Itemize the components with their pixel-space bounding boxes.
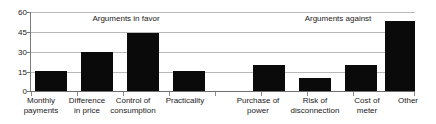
cat-label-line2: consumption [103, 106, 163, 116]
cat-label-control-of-consumption: Control of consumption [103, 96, 163, 116]
cat-label-line1: Cost of [344, 96, 390, 106]
cat-label-line2: meter [344, 106, 390, 116]
x-axis-category-labels: Monthly payments Difference in price Con… [0, 96, 436, 124]
bar-other [385, 21, 415, 91]
bar-practicality [173, 71, 205, 91]
cat-label-line1: Risk of [284, 96, 346, 106]
gridline-45 [31, 32, 415, 33]
group-title-arguments-in-favor: Arguments in favor [46, 14, 206, 23]
bar-risk-of-disconnection [299, 78, 331, 91]
cat-label-line1: Practicality [157, 96, 213, 106]
cat-label-line1: Purchase of [228, 96, 288, 106]
y-tick-label-30: 30 [0, 49, 27, 57]
cat-label-practicality: Practicality [157, 96, 213, 106]
bar-difference-in-price [81, 52, 113, 92]
cat-label-line2: disconnection [284, 106, 346, 116]
bar-purchase-of-power [253, 65, 285, 91]
cat-label-other: Other [388, 96, 428, 106]
plot-area [31, 12, 415, 91]
y-tick-label-45: 45 [0, 29, 27, 37]
gridline-60 [31, 12, 415, 13]
cat-label-cost-of-meter: Cost of meter [344, 96, 390, 116]
bar-cost-of-meter [345, 65, 377, 91]
cat-label-line1: Control of [103, 96, 163, 106]
y-tick-label-0: 0 [0, 88, 27, 96]
cat-label-line1: Other [388, 96, 428, 106]
y-tick-label-15: 15 [0, 69, 27, 77]
cat-label-risk-of-disconnection: Risk of disconnection [284, 96, 346, 116]
cat-label-purchase-of-power: Purchase of power [228, 96, 288, 116]
bar-chart: 60 45 30 15 0 Arguments in favor Argum [0, 0, 436, 124]
y-tick-label-60: 60 [0, 9, 27, 17]
group-title-arguments-against: Arguments against [258, 14, 418, 23]
bar-monthly-payments [35, 71, 67, 91]
bar-control-of-consumption [127, 33, 159, 91]
cat-label-line2: power [228, 106, 288, 116]
x-axis-line [30, 91, 415, 92]
